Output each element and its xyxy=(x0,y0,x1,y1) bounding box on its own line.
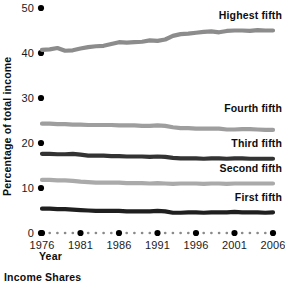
x-tick-dot-major xyxy=(154,230,160,236)
x-tick-dot-minor xyxy=(172,232,175,235)
series-label: Highest fifth xyxy=(219,9,282,21)
x-tick-dot-minor xyxy=(71,232,74,235)
x-tick-dot-minor xyxy=(141,232,144,235)
x-tick-dot-minor xyxy=(64,232,67,235)
x-tick-dot-minor xyxy=(241,232,244,235)
x-axis-tick-labels: 1976198119861991199620012006 xyxy=(30,239,285,251)
x-tick-label: 1991 xyxy=(145,239,170,251)
y-tick-label: 20 xyxy=(22,137,34,149)
series-line xyxy=(42,154,273,159)
x-tick-dot-minor xyxy=(87,232,90,235)
x-tick-dot-major xyxy=(231,230,237,236)
x-tick-dot-minor xyxy=(95,232,98,235)
x-tick-dot-minor xyxy=(148,232,151,235)
x-tick-dot-minor xyxy=(249,232,252,235)
x-tick-dot-minor xyxy=(164,232,167,235)
x-axis-dotted-line xyxy=(39,230,276,236)
x-tick-dot-minor xyxy=(125,232,128,235)
series-label: Fourth fifth xyxy=(224,102,282,114)
x-axis-title: Year xyxy=(39,250,62,262)
x-tick-label: 2006 xyxy=(261,239,285,251)
x-tick-dot-minor xyxy=(218,232,221,235)
x-tick-dot-major xyxy=(39,230,45,236)
series-label: Second fifth xyxy=(220,162,282,174)
x-tick-dot-major xyxy=(270,230,276,236)
x-tick-label: 1986 xyxy=(107,239,132,251)
y-axis-ticks: 01020304050 xyxy=(22,2,45,239)
series-labels: Highest fifthFourth fifthThird fifthSeco… xyxy=(219,9,282,202)
y-axis-title: Percentage of total income xyxy=(1,57,13,196)
series-line xyxy=(42,30,273,51)
y-tick-label: 30 xyxy=(22,92,34,104)
chart-caption: Income Shares xyxy=(4,271,81,283)
x-tick-dot-major xyxy=(116,230,122,236)
chart-plot-area: 01020304050 1976198119861991199620012006… xyxy=(0,0,285,286)
y-tick-label: 50 xyxy=(22,2,34,14)
x-tick-label: 2001 xyxy=(222,239,247,251)
x-tick-dot-minor xyxy=(256,232,259,235)
x-tick-dot-minor xyxy=(133,232,136,235)
x-tick-dot-major xyxy=(193,230,199,236)
x-tick-dot-minor xyxy=(179,232,182,235)
y-tick-label: 0 xyxy=(28,227,34,239)
x-tick-dot-minor xyxy=(264,232,267,235)
y-tick-label: 10 xyxy=(22,182,34,194)
x-tick-dot-minor xyxy=(187,232,190,235)
y-tick-label: 40 xyxy=(22,47,34,59)
x-tick-dot-minor xyxy=(56,232,59,235)
x-tick-dot-minor xyxy=(202,232,205,235)
x-tick-label: 1996 xyxy=(184,239,209,251)
x-tick-dot-minor xyxy=(110,232,113,235)
x-tick-label: 1981 xyxy=(68,239,93,251)
x-tick-dot-minor xyxy=(102,232,105,235)
y-tick-dot xyxy=(38,95,44,101)
series-lines xyxy=(42,30,273,213)
series-line xyxy=(42,124,273,130)
x-tick-dot-minor xyxy=(210,232,213,235)
y-tick-dot xyxy=(38,185,44,191)
series-label: Third fifth xyxy=(231,137,282,149)
income-shares-chart: 01020304050 1976198119861991199620012006… xyxy=(0,0,285,286)
x-tick-dot-minor xyxy=(48,232,51,235)
series-line xyxy=(42,209,273,213)
x-tick-dot-major xyxy=(77,230,83,236)
series-label: First fifth xyxy=(235,191,282,203)
x-tick-dot-minor xyxy=(225,232,228,235)
series-line xyxy=(42,180,273,184)
y-tick-dot xyxy=(38,5,44,11)
y-tick-dot xyxy=(38,140,44,146)
